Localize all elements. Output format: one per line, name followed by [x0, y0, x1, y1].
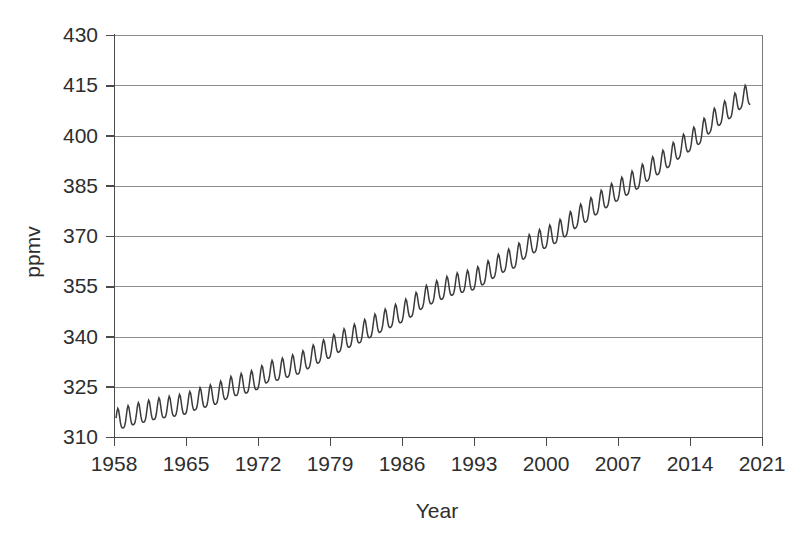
y-tick-label-430: 430 — [63, 23, 98, 46]
y-tick-label-415: 415 — [63, 73, 98, 96]
x-tick-label-2000: 2000 — [523, 452, 570, 475]
x-tick-label-1979: 1979 — [307, 452, 354, 475]
x-tick-label-2021: 2021 — [739, 452, 786, 475]
y-tick-label-310: 310 — [63, 425, 98, 448]
y-axis-title: ppmv — [21, 226, 44, 278]
y-tick-label-400: 400 — [63, 124, 98, 147]
y-tick-label-325: 325 — [63, 375, 98, 398]
x-tick-label-1972: 1972 — [235, 452, 282, 475]
x-tick-label-1986: 1986 — [379, 452, 426, 475]
y-tick-labels-group: 310325340355370385400415430 — [63, 23, 98, 448]
x-tick-label-2007: 2007 — [595, 452, 642, 475]
x-tick-label-2014: 2014 — [667, 452, 714, 475]
y-tick-label-385: 385 — [63, 174, 98, 197]
x-tick-label-1993: 1993 — [451, 452, 498, 475]
co2-keeling-curve-chart: 310325340355370385400415430 195819651972… — [0, 0, 801, 547]
y-tick-label-370: 370 — [63, 224, 98, 247]
y-tick-label-340: 340 — [63, 325, 98, 348]
y-tick-label-355: 355 — [63, 274, 98, 297]
chart-container: 310325340355370385400415430 195819651972… — [0, 0, 801, 547]
x-tick-label-1958: 1958 — [91, 452, 138, 475]
x-axis-title: Year — [416, 499, 458, 522]
x-tick-label-1965: 1965 — [163, 452, 210, 475]
